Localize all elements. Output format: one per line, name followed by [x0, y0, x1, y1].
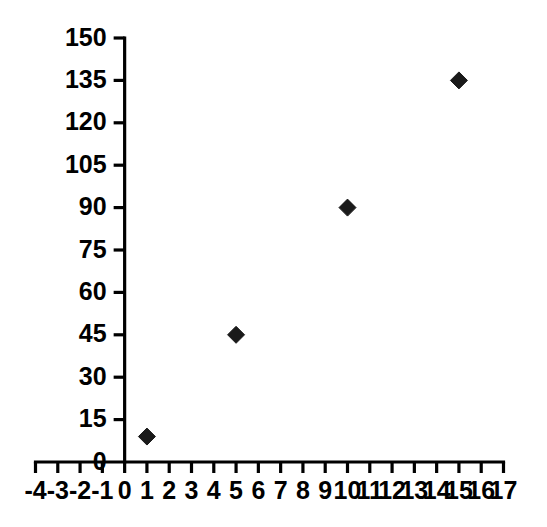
x-axis-tick-label: 3: [185, 476, 199, 504]
y-axis-tick-label: 60: [79, 277, 107, 305]
y-axis-tick-label: 120: [65, 107, 107, 135]
x-axis-tick-label: 9: [318, 476, 332, 504]
x-axis-tick-label: 2: [162, 476, 176, 504]
x-axis-tick-label: -3: [47, 476, 69, 504]
x-axis-tick-label: 8: [296, 476, 310, 504]
data-point-marker: [450, 72, 467, 89]
x-axis-tick-label: 7: [274, 476, 288, 504]
x-axis-tick-label: 6: [251, 476, 265, 504]
scatter-chart: 0153045607590105120135150 -4-3-2-1012345…: [0, 0, 547, 527]
y-axis-tick-label: 75: [79, 235, 107, 263]
x-axis-tick-label: -4: [24, 476, 46, 504]
data-point-marker: [339, 199, 356, 216]
x-axis-tick-label: -1: [91, 476, 113, 504]
x-axis-tick-label: 5: [229, 476, 243, 504]
x-axis-tick-label: 17: [490, 476, 518, 504]
y-axis: 0153045607590105120135150: [65, 23, 125, 475]
y-axis-tick-label: 135: [65, 65, 107, 93]
data-points: [138, 72, 467, 445]
plot-area: 0153045607590105120135150 -4-3-2-1012345…: [0, 0, 547, 527]
y-axis-tick-label: 90: [79, 192, 107, 220]
y-axis-tick-label: 45: [79, 319, 107, 347]
data-point-marker: [228, 326, 245, 343]
x-axis-tick-label: 0: [118, 476, 132, 504]
y-axis-tick-label: 15: [79, 404, 107, 432]
x-axis-tick-label: 4: [207, 476, 221, 504]
y-axis-tick-label: 150: [65, 23, 107, 51]
x-axis-tick-label: 1: [140, 476, 154, 504]
x-axis-tick-label: -2: [69, 476, 91, 504]
y-axis-tick-label: 105: [65, 150, 107, 178]
data-point-marker: [138, 428, 155, 445]
y-axis-tick-label: 30: [79, 362, 107, 390]
